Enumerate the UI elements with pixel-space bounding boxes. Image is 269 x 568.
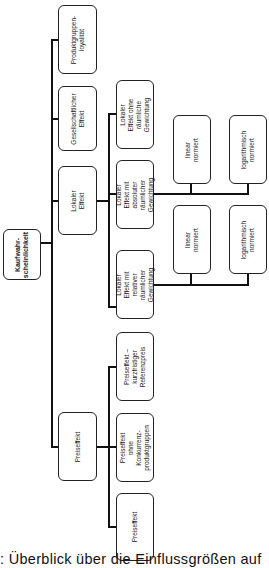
node-rel-linear-normiert: linear normiert bbox=[173, 205, 211, 274]
connector-preis-ref bbox=[108, 366, 116, 368]
node-preis-ohne-konkurrenz: Preiseffekt ohne Konkurrenz- produktgrup… bbox=[116, 413, 154, 482]
node-lokaler-effekt: Lokaler Effekt bbox=[58, 166, 97, 235]
node-label: linear normiert bbox=[184, 138, 200, 162]
connector-rel-bar bbox=[153, 284, 249, 286]
node-label: logarithmisch normiert bbox=[240, 130, 256, 168]
node-rel-log-normiert: logarithmisch normiert bbox=[229, 205, 267, 274]
connector-trunk bbox=[51, 39, 53, 448]
node-label: Kaufwahr- scheinlichkeit bbox=[14, 231, 30, 277]
node-label: Preiseffekt bbox=[131, 512, 139, 543]
node-gesellschaftlicher-effekt: Gesellschaftlicher Effekt bbox=[58, 86, 97, 151]
node-preiseffekt: Preiseffekt bbox=[58, 412, 97, 481]
node-label: Preiseffekt – kurzfristiger Referenzprei… bbox=[123, 346, 147, 386]
connector-abs-bar bbox=[153, 193, 249, 195]
connector-lokal-vertical bbox=[108, 113, 110, 308]
node-produktgruppenloyalitaet: Produktgruppen- loyalität bbox=[58, 5, 97, 74]
node-preis-referenzpreis: Preiseffekt – kurzfristiger Referenzprei… bbox=[116, 332, 154, 401]
node-label: linear normiert bbox=[184, 228, 200, 252]
node-label: Preiseffekt bbox=[74, 431, 82, 462]
connector-lokal-rel bbox=[108, 306, 116, 308]
node-kaufwahrscheinlichkeit: Kaufwahr- scheinlichkeit bbox=[3, 229, 41, 280]
node-abs-log-normiert: logarithmisch normiert bbox=[229, 115, 267, 184]
node-label: Lokaler Effekt mit absoluter räumlicher … bbox=[115, 177, 155, 211]
connector-preis-pe bbox=[108, 526, 116, 528]
connector-lokal-ohne bbox=[108, 113, 116, 115]
node-label: Lokaler Effekt bbox=[70, 190, 86, 211]
node-label: Lokaler Effekt mit relativer räumlicher … bbox=[115, 267, 155, 301]
node-label: Lokaler Effekt ohne räumliche Gewichtung bbox=[119, 97, 151, 131]
node-label: Preiseffekt ohne Konkurrenz- produktgrup… bbox=[119, 425, 151, 471]
node-label: Gesellschaftlicher Effekt bbox=[70, 93, 86, 144]
node-abs-linear-normiert: linear normiert bbox=[173, 115, 211, 184]
connector-preis-ohne bbox=[108, 446, 116, 448]
node-label: logarithmisch normiert bbox=[240, 220, 256, 258]
figure-caption: : Überblick über die Einflussgrößen auf bbox=[0, 551, 269, 567]
node-lokal-absolute-gewichtung: Lokaler Effekt mit absoluter räumlicher … bbox=[116, 160, 154, 229]
node-lokal-ohne-gewichtung: Lokaler Effekt ohne räumliche Gewichtung bbox=[116, 80, 154, 149]
node-lokal-relative-gewichtung: Lokaler Effekt mit relativer räumlicher … bbox=[116, 250, 154, 319]
node-label: Produktgruppen- loyalität bbox=[70, 15, 86, 63]
